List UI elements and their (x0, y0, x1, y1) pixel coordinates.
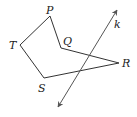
geometry-diagram: P Q R S T k (0, 0, 137, 117)
vertex-label-s: S (38, 82, 46, 95)
vertex-label-q: Q (63, 35, 72, 48)
vertex-label-p: P (45, 4, 54, 17)
vertex-label-r: R (121, 57, 130, 70)
vertex-label-t: T (9, 39, 18, 52)
line-k (58, 10, 117, 107)
line-label-k: k (114, 18, 121, 31)
